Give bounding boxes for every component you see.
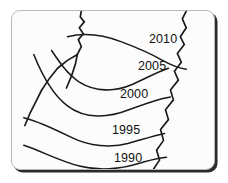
contour-line-1990 xyxy=(24,145,167,169)
contour-label-2010: 2010 xyxy=(149,33,177,46)
contour-line-group xyxy=(24,35,186,169)
boundary-top-center-divide xyxy=(66,11,84,88)
contour-line-1995 xyxy=(24,118,165,146)
contour-label-2000: 2000 xyxy=(120,88,148,101)
boundary-left-branch-divide xyxy=(25,54,77,125)
contour-map-figure: 2010 2005 2000 1995 1990 xyxy=(0,0,228,183)
contour-label-2005: 2005 xyxy=(138,60,166,73)
contour-label-1995: 1995 xyxy=(112,124,140,137)
map-canvas xyxy=(12,11,214,169)
map-panel: 2010 2005 2000 1995 1990 xyxy=(11,10,215,170)
contour-label-1990: 1990 xyxy=(114,152,142,165)
